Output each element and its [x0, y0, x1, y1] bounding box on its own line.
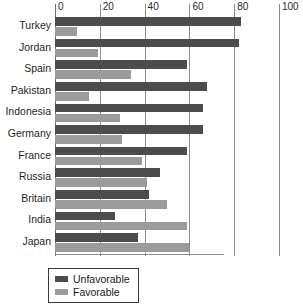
bar-germany-unfavorable: [55, 125, 203, 134]
bar-pakistan-favorable: [55, 92, 89, 101]
x-tick-label-40: 40: [145, 1, 159, 12]
bar-jordan-unfavorable: [55, 39, 239, 48]
category-label-russia: Russia: [19, 171, 51, 182]
bar-japan-favorable: [55, 243, 189, 252]
legend-swatch-unfavorable: [55, 276, 68, 282]
axis-baseline: [55, 254, 224, 255]
gridline-100: [279, 4, 280, 256]
chart-row: Turkey: [55, 16, 279, 38]
bar-britain-unfavorable: [55, 190, 149, 199]
chart-row: Britain: [55, 189, 279, 211]
category-label-india: India: [28, 214, 51, 225]
category-label-britain: Britain: [21, 193, 51, 204]
legend-item-unfavorable: Unfavorable: [55, 272, 130, 285]
chart-row: Pakistan: [55, 81, 279, 103]
x-tick-label-60: 60: [189, 1, 203, 12]
chart-row: India: [55, 210, 279, 232]
bar-india-favorable: [55, 222, 187, 231]
bar-indonesia-favorable: [55, 114, 120, 123]
x-tick-label-80: 80: [234, 1, 248, 12]
chart-row: Germany: [55, 124, 279, 146]
legend-swatch-favorable: [55, 289, 68, 295]
x-tick-label-20: 20: [100, 1, 114, 12]
legend-label-unfavorable: Unfavorable: [73, 273, 130, 285]
category-label-france: France: [18, 150, 51, 161]
bar-france-favorable: [55, 157, 142, 166]
chart-row: Japan: [55, 232, 279, 254]
x-tick-label-100: 100: [279, 1, 299, 12]
bar-jordan-favorable: [55, 49, 98, 58]
bar-russia-favorable: [55, 178, 147, 187]
category-label-spain: Spain: [24, 63, 51, 74]
chart-row: Jordan: [55, 38, 279, 60]
category-label-germany: Germany: [8, 128, 51, 139]
category-label-jordan: Jordan: [19, 42, 51, 53]
category-label-indonesia: Indonesia: [5, 106, 51, 117]
bar-germany-favorable: [55, 135, 122, 144]
chart-row: Russia: [55, 167, 279, 189]
bar-india-unfavorable: [55, 212, 115, 221]
chart-row: Spain: [55, 59, 279, 81]
category-label-turkey: Turkey: [19, 20, 51, 31]
legend-item-favorable: Favorable: [55, 285, 130, 298]
bar-turkey-unfavorable: [55, 17, 241, 26]
category-label-pakistan: Pakistan: [11, 85, 51, 96]
category-label-japan: Japan: [22, 236, 51, 247]
chart-row: Indonesia: [55, 102, 279, 124]
chart-legend: Unfavorable Favorable: [48, 268, 139, 303]
bar-chart: 020406080100TurkeyJordanSpainPakistanInd…: [0, 0, 303, 307]
x-tick-label-0: 0: [55, 1, 64, 12]
bar-indonesia-unfavorable: [55, 104, 203, 113]
bar-russia-unfavorable: [55, 168, 160, 177]
bar-spain-unfavorable: [55, 60, 187, 69]
bar-japan-unfavorable: [55, 233, 138, 242]
chart-row: France: [55, 146, 279, 168]
bar-france-unfavorable: [55, 147, 187, 156]
bar-britain-favorable: [55, 200, 167, 209]
bar-pakistan-unfavorable: [55, 82, 207, 91]
bar-spain-favorable: [55, 70, 131, 79]
bar-turkey-favorable: [55, 27, 77, 36]
plot-area: 020406080100TurkeyJordanSpainPakistanInd…: [55, 16, 279, 254]
legend-label-favorable: Favorable: [73, 286, 120, 298]
